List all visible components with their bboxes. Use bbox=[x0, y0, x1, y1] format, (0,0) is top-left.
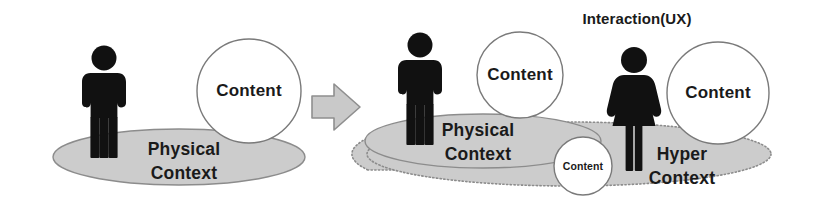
physical-context-label-line1: Physical bbox=[148, 139, 221, 159]
diagram-canvas: Content Physical Context Content bbox=[0, 0, 816, 216]
physical-context-right-label-line1: Physical bbox=[442, 120, 515, 140]
content-circle-right-label: Content bbox=[685, 83, 751, 102]
interaction-ux-label: Interaction(UX) bbox=[582, 10, 691, 27]
content-circle-middle-label: Content bbox=[487, 65, 553, 84]
content-circle-left-label: Content bbox=[216, 81, 282, 100]
hyper-context-group-right: Content Content Physical Context Content… bbox=[352, 10, 771, 195]
physical-context-label-line2: Context bbox=[151, 163, 218, 183]
content-circle-small-label: Content bbox=[563, 160, 604, 172]
physical-context-group-left: Content Physical Context bbox=[53, 39, 305, 185]
hyper-context-label-line2: Context bbox=[649, 168, 716, 188]
physical-context-right-label-line2: Context bbox=[445, 144, 512, 164]
transition-arrow bbox=[312, 84, 360, 130]
hyper-context-label-line1: Hyper bbox=[657, 144, 708, 164]
concept-diagram: Content Physical Context Content bbox=[0, 0, 816, 216]
